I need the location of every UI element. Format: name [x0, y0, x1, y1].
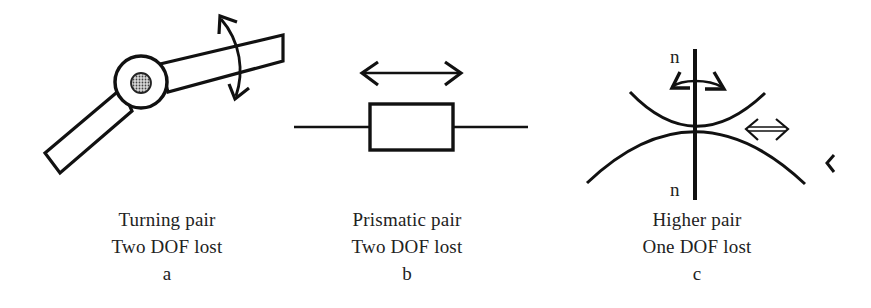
- slider-block: [370, 104, 453, 150]
- turning-pair-figure: [45, 16, 283, 173]
- normal-label-bottom: n: [670, 179, 680, 200]
- normal-label-top: n: [670, 46, 680, 67]
- caption-higher-pair: Higher pair One DOF lost c: [577, 206, 817, 287]
- upper-curve: [630, 92, 765, 126]
- caption-title: Turning pair: [47, 206, 287, 233]
- pin-icon: [131, 73, 151, 93]
- caption-dof: Two DOF lost: [287, 233, 527, 260]
- caption-letter: c: [577, 260, 817, 287]
- caption-letter: b: [287, 260, 527, 287]
- prismatic-pair-figure: [294, 62, 528, 150]
- caption-dof: One DOF lost: [577, 233, 817, 260]
- caption-dof: Two DOF lost: [47, 233, 287, 260]
- caption-letter: a: [47, 260, 287, 287]
- chevron-left-icon: [827, 155, 834, 172]
- rotation-arrow-right-head: [705, 72, 724, 89]
- caption-turning-pair: Turning pair Two DOF lost a: [47, 206, 287, 287]
- upper-link: [160, 35, 283, 92]
- caption-title: Higher pair: [577, 206, 817, 233]
- caption-prismatic-pair: Prismatic pair Two DOF lost b: [287, 206, 527, 287]
- caption-title: Prismatic pair: [287, 206, 527, 233]
- lower-link: [45, 88, 132, 173]
- higher-pair-figure: n n: [587, 46, 834, 200]
- sliding-arrow-head-left: [746, 119, 758, 140]
- rotation-arrow-left-head: [672, 72, 690, 88]
- sliding-arrow-head-right: [776, 119, 788, 140]
